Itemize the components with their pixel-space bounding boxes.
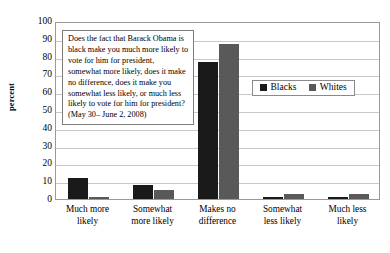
bar-whites-1	[154, 190, 174, 199]
legend-label: Whites	[320, 83, 347, 93]
bar-blacks-3	[263, 197, 283, 199]
legend: BlacksWhites	[252, 80, 355, 96]
y-axis-tick: 30	[20, 142, 52, 152]
question-text: Does the fact that Barack Obama is black…	[68, 34, 189, 110]
legend-swatch-icon	[309, 84, 316, 91]
bar-group	[251, 23, 316, 199]
legend-swatch-icon	[260, 84, 267, 91]
bar-whites-0	[89, 197, 109, 199]
y-axis-tick: 0	[20, 195, 52, 205]
bar-whites-3	[284, 194, 304, 199]
question-annotation: Does the fact that Barack Obama is black…	[62, 30, 194, 125]
x-axis-label-4: Much lesslikely	[315, 204, 380, 228]
bar-blacks-1	[133, 185, 153, 199]
bar-whites-2	[219, 44, 239, 199]
bar-blacks-4	[328, 197, 348, 199]
legend-label: Blacks	[271, 83, 297, 93]
question-date: (May 30– June 2, 2008)	[68, 110, 189, 121]
x-axis-label-3: Somewhatless likely	[250, 204, 315, 228]
bar-chart: percent 1009080706050403020100 Does the …	[0, 0, 390, 253]
x-axis-category-labels: Much morelikelySomewhatmore likelyMakes …	[55, 204, 380, 248]
y-axis-tick-labels: 1009080706050403020100	[20, 22, 52, 200]
bar-group	[316, 23, 381, 199]
legend-item-blacks: Blacks	[260, 83, 296, 93]
y-axis-tick: 20	[20, 160, 52, 170]
y-axis-title: percent	[6, 62, 16, 132]
bar-whites-4	[349, 194, 369, 199]
y-axis-tick: 90	[20, 35, 52, 45]
y-axis-tick: 40	[20, 124, 52, 134]
y-axis-tick: 80	[20, 53, 52, 63]
y-axis-tick: 70	[20, 71, 52, 81]
x-axis-label-0: Much morelikely	[55, 204, 120, 228]
bar-blacks-2	[198, 62, 218, 199]
x-axis-label-2: Makes nodifference	[185, 204, 250, 228]
x-axis-label-1: Somewhatmore likely	[120, 204, 185, 228]
y-axis-tick: 100	[20, 17, 52, 27]
y-axis-tick: 60	[20, 88, 52, 98]
y-axis-tick: 50	[20, 106, 52, 116]
bar-group	[186, 23, 251, 199]
legend-item-whites: Whites	[309, 83, 346, 93]
y-axis-tick: 10	[20, 177, 52, 187]
bar-blacks-0	[68, 178, 88, 199]
